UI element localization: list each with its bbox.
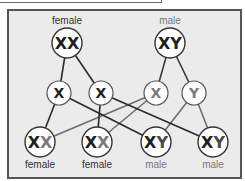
gamete-4-letter: Y: [188, 85, 200, 101]
mother-node: XX: [52, 28, 82, 58]
offspring-3-maternal: X: [144, 133, 157, 152]
gamete-3-letter: X: [151, 85, 162, 101]
svg-text:XY: XY: [144, 133, 168, 152]
offspring-2-maternal: X: [85, 133, 98, 152]
father-genotype: XY: [158, 34, 182, 53]
inheritance-diagram: female male XX XY X X X Y XX XX: [0, 0, 245, 181]
gamete-node-4: Y: [182, 81, 206, 105]
offspring-node-4: XY: [198, 127, 228, 157]
offspring-1-maternal: X: [28, 133, 41, 152]
offspring-node-3: XY: [141, 127, 171, 157]
offspring-1-paternal: X: [40, 133, 53, 152]
gamete-node-2: X: [89, 81, 113, 105]
svg-text:XX: XX: [28, 133, 53, 152]
offspring-3-paternal: Y: [155, 133, 168, 152]
svg-text:XX: XX: [85, 133, 110, 152]
father-node: XY: [155, 28, 185, 58]
gamete-node-3: X: [144, 81, 168, 105]
offspring-3-label: male: [145, 159, 167, 170]
offspring-2-label: female: [82, 159, 112, 170]
offspring-4-maternal: X: [201, 133, 214, 152]
offspring-node-1: XX: [25, 127, 55, 157]
offspring-4-label: male: [202, 159, 224, 170]
offspring-node-2: XX: [82, 127, 112, 157]
offspring-2-paternal: X: [97, 133, 110, 152]
offspring-1-label: female: [25, 159, 55, 170]
offspring-4-paternal: Y: [212, 133, 225, 152]
mother-label: female: [52, 15, 82, 26]
gamete-1-letter: X: [54, 85, 65, 101]
svg-text:XY: XY: [201, 133, 225, 152]
gamete-node-1: X: [47, 81, 71, 105]
gamete-2-letter: X: [96, 85, 107, 101]
mother-genotype: XX: [55, 34, 80, 53]
father-label: male: [159, 15, 181, 26]
